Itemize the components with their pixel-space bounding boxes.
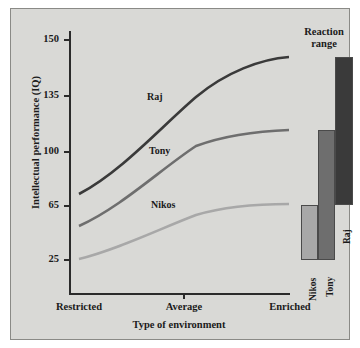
plot-area: 150 135 100 65 25 Restricted Average Enr… — [11, 9, 351, 341]
reaction-range-title-line2: range — [311, 38, 337, 49]
figure-panel: 150 135 100 65 25 Restricted Average Enr… — [10, 8, 350, 340]
reaction-bar-label-tony: Tony — [325, 277, 335, 297]
curve-label-raj: Raj — [147, 91, 163, 102]
y-tick-label-150: 150 — [25, 34, 59, 44]
y-tick-mark-25 — [64, 259, 69, 261]
reaction-bar-tony — [318, 130, 335, 260]
x-axis-line — [69, 293, 290, 295]
x-axis-title: Type of environment — [89, 319, 269, 330]
y-axis-title: Intellectual performance (IQ) — [30, 53, 41, 233]
x-tick-label-enriched: Enriched — [245, 301, 335, 313]
x-tick-label-restricted: Restricted — [34, 301, 124, 313]
curve-raj — [79, 57, 289, 194]
curve-label-nikos: Nikos — [151, 199, 175, 210]
reaction-bar-raj — [335, 57, 353, 205]
reaction-range-title: Reaction range — [289, 26, 359, 49]
y-tick-mark-135 — [64, 95, 69, 97]
x-tick-mark-average — [183, 294, 185, 299]
curves-svg — [11, 9, 351, 341]
reaction-range-title-line1: Reaction — [304, 26, 344, 37]
curve-nikos — [79, 204, 289, 259]
y-axis-line — [69, 31, 71, 294]
curve-tony — [79, 130, 289, 226]
y-tick-label-25: 25 — [25, 254, 59, 264]
reaction-bar-nikos — [301, 205, 318, 260]
y-tick-mark-100 — [64, 151, 69, 153]
reaction-bar-label-nikos: Nikos — [308, 278, 318, 301]
curve-label-tony: Tony — [149, 145, 170, 156]
y-tick-mark-150 — [64, 39, 69, 41]
reaction-bar-label-raj: Raj — [342, 229, 352, 244]
x-tick-label-average: Average — [139, 301, 229, 313]
y-tick-mark-65 — [64, 205, 69, 207]
